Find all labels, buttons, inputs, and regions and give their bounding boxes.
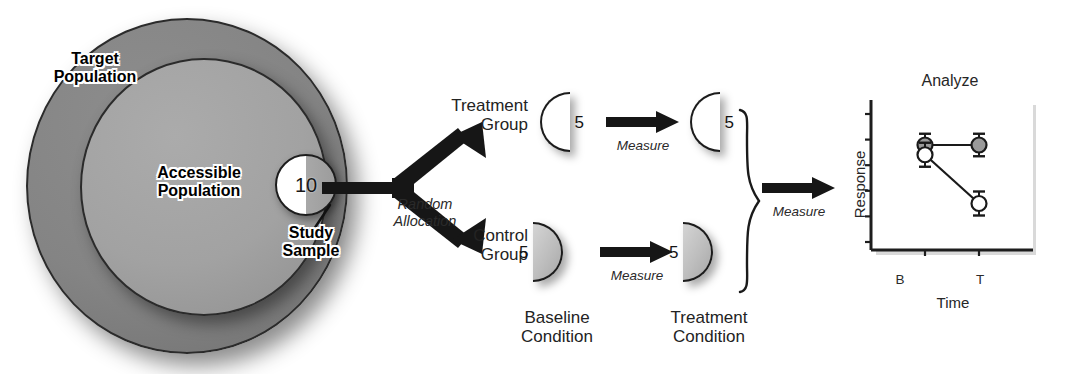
- chart-title: Analyze: [862, 72, 1038, 90]
- grouping-brace-icon: [737, 108, 763, 294]
- arrow-right-icon: [600, 240, 674, 264]
- x-tick-label-t: T: [970, 272, 990, 287]
- accessible-population-label: Accessible Population: [104, 164, 294, 200]
- treatment-condition-label: Treatment Condition: [646, 308, 772, 347]
- treatment-group-treated-marker: 5: [690, 92, 720, 152]
- treatment-group-treated-count: 5: [725, 114, 734, 131]
- x-tick-label-b: B: [890, 272, 910, 287]
- analyze-line-chart: [858, 98, 1036, 270]
- measure-label-to-analysis: Measure: [760, 205, 838, 220]
- treatment-group-baseline-count: 5: [575, 114, 584, 131]
- study-sample-count: 10: [295, 175, 317, 195]
- chart-marker: [972, 138, 987, 153]
- treatment-group-baseline-marker: 5: [540, 92, 570, 152]
- measure-arrow-control-row: Measure: [592, 240, 682, 284]
- arrow-right-icon: [762, 176, 836, 200]
- arrow-right-icon: [606, 110, 680, 134]
- measure-arrow-treatment-row: Measure: [598, 110, 688, 154]
- chart-x-axis-label: Time: [868, 294, 1038, 311]
- diagram-canvas: 10 Target Population Accessible Populati…: [0, 0, 1068, 374]
- plot-background: [871, 100, 1033, 250]
- treatment-group-label: Treatment Group: [420, 96, 528, 135]
- control-group-treated-marker: 5: [683, 222, 713, 282]
- measure-label-control-row: Measure: [592, 269, 682, 284]
- random-allocation-caption: Random Allocation: [370, 196, 480, 230]
- control-group-baseline-count: 5: [519, 244, 528, 261]
- control-group-baseline-marker: 5: [533, 222, 563, 282]
- control-group-label: Control Group: [420, 226, 528, 265]
- measure-arrow-to-analysis: Measure: [760, 176, 838, 220]
- target-population-label: Target Population: [20, 50, 170, 86]
- measure-label-treatment-row: Measure: [598, 139, 688, 154]
- analyze-chart-panel: Analyze Response Time B T: [838, 72, 1056, 322]
- population-circles-group: 10 Target Population Accessible Populati…: [8, 6, 368, 368]
- chart-marker: [918, 147, 933, 162]
- baseline-condition-label: Baseline Condition: [498, 308, 616, 347]
- chart-marker: [972, 196, 987, 211]
